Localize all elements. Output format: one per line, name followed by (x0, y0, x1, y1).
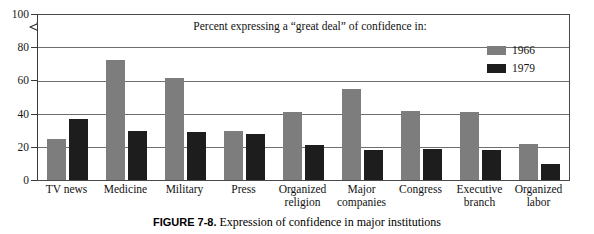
bar (47, 139, 66, 180)
bar-group (460, 15, 501, 180)
bar-group (224, 15, 265, 180)
bar (342, 89, 361, 180)
y-tick-label-20: 20 (18, 142, 30, 153)
figure-caption: FIGURE 7-8. Expression of confidence in … (0, 215, 594, 229)
bar (401, 111, 420, 180)
y-tick-label-0: 0 (23, 175, 29, 186)
bar (460, 112, 479, 180)
bar-group (283, 15, 324, 180)
bar (283, 112, 302, 180)
bar (224, 131, 243, 181)
figure-container: 100 80 60 40 20 0 Percent expressing a “… (0, 0, 594, 234)
bar-group (47, 15, 88, 180)
bar (69, 119, 88, 180)
y-tick-label-60: 60 (18, 75, 30, 86)
y-tick-label-80: 80 (18, 42, 30, 53)
bar-group (342, 15, 383, 180)
bar (541, 164, 560, 181)
bar (519, 144, 538, 180)
figure-number: FIGURE 7-8. (153, 216, 217, 228)
y-tick-label-100: 100 (12, 9, 29, 20)
bar (423, 149, 442, 180)
bar (187, 132, 206, 180)
bar-group (106, 15, 147, 180)
x-axis-labels: TV newsMedicineMilitaryPressOrganizedrel… (37, 183, 570, 219)
bar-group (401, 15, 442, 180)
bar (165, 78, 184, 180)
bar (482, 150, 501, 180)
bar (246, 134, 265, 180)
bar (106, 60, 125, 180)
x-axis-label: Organizedlabor (503, 183, 574, 209)
y-axis: 100 80 60 40 20 0 (0, 0, 37, 234)
bar (364, 150, 383, 180)
y-tick-label-40: 40 (18, 109, 30, 120)
bar-group (165, 15, 206, 180)
bar (128, 131, 147, 181)
bar-group (519, 15, 560, 180)
figure-caption-text: Expression of confidence in major instit… (219, 215, 441, 229)
bar (305, 145, 324, 180)
bars-layer (38, 15, 569, 180)
